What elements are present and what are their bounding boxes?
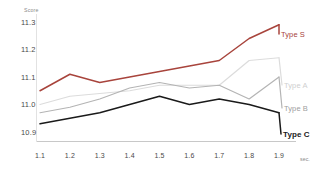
line-chart: Score 11.311.211.111.010.9 1.11.21.31.41… bbox=[0, 0, 320, 178]
series-label-type-c: Type C bbox=[283, 130, 310, 139]
y-tick-label: 11.0 bbox=[21, 100, 36, 109]
y-tick-label: 10.9 bbox=[21, 128, 36, 137]
x-tick-label: 1.8 bbox=[239, 152, 259, 159]
series-label-type-s: Type S bbox=[281, 30, 305, 39]
x-tick-label: 1.3 bbox=[90, 152, 110, 159]
series-label-type-a: Type A bbox=[284, 81, 308, 90]
x-tick-label: 1.4 bbox=[120, 152, 140, 159]
x-tick-label: 1.1 bbox=[30, 152, 50, 159]
y-tick-label: 11.2 bbox=[21, 45, 36, 54]
series-line-type-s bbox=[40, 25, 279, 91]
y-tick-label: 11.3 bbox=[21, 18, 36, 27]
series-layer bbox=[40, 25, 282, 134]
x-tick-label: 1.5 bbox=[150, 152, 170, 159]
series-line-type-b bbox=[40, 77, 279, 113]
series-label-type-b: Type B bbox=[284, 104, 308, 113]
x-tick-label: 1.7 bbox=[209, 152, 229, 159]
y-tick-label: 11.1 bbox=[21, 73, 36, 82]
x-tick-label: 1.9 bbox=[269, 152, 289, 159]
x-tick-label: 1.6 bbox=[179, 152, 199, 159]
x-tick-label: 1.2 bbox=[60, 152, 80, 159]
series-leader-type-c bbox=[279, 113, 281, 134]
series-line-type-c bbox=[40, 96, 279, 124]
series-line-type-a bbox=[40, 58, 279, 105]
x-axis-unit-label: sec. bbox=[300, 156, 310, 162]
